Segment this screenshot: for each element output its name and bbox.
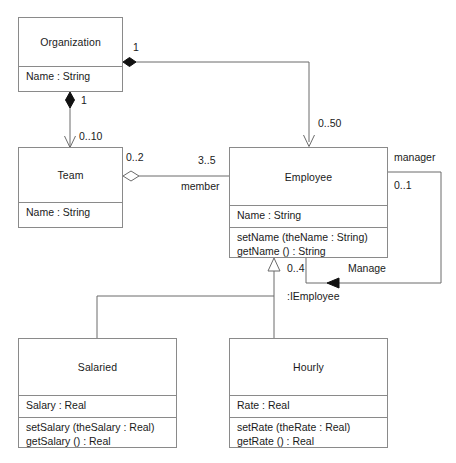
class-operations-hourly: setRate (theRate : Real) getRate () : Re… [230,417,387,449]
operation-row: getSalary () : Real [26,435,170,449]
generalization-triangle-icon [268,258,280,271]
class-box-employee[interactable]: Employee Name : String setName (theName … [229,147,388,258]
class-attributes-hourly: Rate : Real [230,395,387,417]
attribute-row: Name : String [237,209,381,223]
class-name-organization: Organization [19,18,122,66]
connector-generalization [97,258,280,338]
operation-row: getName () : String [237,245,381,259]
composition-diamond-icon [66,92,75,108]
operation-row: setSalary (theSalary : Real) [26,421,170,435]
class-box-hourly[interactable]: Hourly Rate : Real setRate (theRate : Re… [229,338,388,448]
operation-row: setRate (theRate : Real) [237,421,381,435]
association-direction-triangle-icon [327,278,339,288]
role-label-member: member [181,181,220,192]
multiplicity-org-team-target: 0..10 [79,131,102,142]
class-name-salaried: Salaried [19,339,176,395]
multiplicity-org-employee-target: 0..50 [318,118,341,129]
class-operations-employee: setName (theName : String) getName () : … [230,227,387,259]
class-name-team: Team [19,148,122,202]
class-name-employee: Employee [230,148,387,205]
class-operations-salaried: setSalary (theSalary : Real) getSalary (… [19,417,176,449]
connector-organization-employee [123,58,315,147]
multiplicity-org-employee-source: 1 [133,42,139,53]
class-attributes-team: Name : String [19,202,122,228]
role-label-manager: manager [394,152,435,163]
class-attributes-salaried: Salary : Real [19,395,176,417]
interface-label-iemployee: :IEmployee [287,291,340,302]
class-attributes-organization: Name : String [19,66,122,92]
class-box-team[interactable]: Team Name : String [18,147,123,228]
uml-class-diagram-canvas: Organization Name : String Team Name : S… [0,0,456,463]
association-name-manage: Manage [348,263,386,274]
operation-row: setName (theName : String) [237,231,381,245]
attribute-row: Rate : Real [237,399,381,413]
class-box-salaried[interactable]: Salaried Salary : Real setSalary (theSal… [18,338,177,448]
composition-diamond-icon [123,58,136,67]
multiplicity-team-employee-target: 3..5 [198,155,216,166]
class-attributes-employee: Name : String [230,205,387,227]
multiplicity-team-employee-source: 0..2 [126,152,144,163]
class-name-hourly: Hourly [230,339,387,395]
class-box-organization[interactable]: Organization Name : String [18,17,123,92]
connector-organization-team [65,92,76,148]
operation-row: getRate () : Real [237,435,381,449]
attribute-row: Name : String [26,206,116,220]
aggregation-diamond-icon [123,171,139,181]
attribute-row: Name : String [26,70,116,84]
multiplicity-managed: 0..4 [287,263,305,274]
attribute-row: Salary : Real [26,399,170,413]
multiplicity-manager: 0..1 [394,180,412,191]
multiplicity-org-team-source: 1 [81,95,87,106]
